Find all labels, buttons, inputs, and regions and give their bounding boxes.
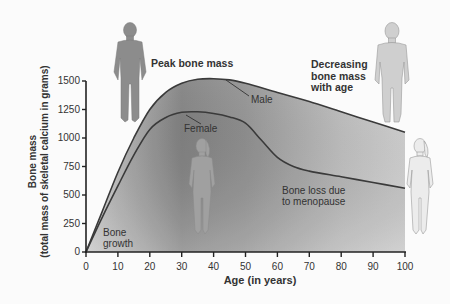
y-axis-label: Bone mass: [27, 62, 39, 262]
child-figure-icon: [114, 23, 146, 123]
x-tick-label: 50: [231, 261, 261, 272]
menopause-line-1: Bone loss due: [282, 185, 345, 196]
x-tick-label: 100: [390, 261, 420, 272]
adult-male-figure-icon: [375, 23, 409, 123]
x-tick-label: 70: [294, 261, 324, 272]
elderly-female-figure-icon: [407, 139, 433, 235]
y-axis-title: Bone mass (total mass of skeletal calciu…: [27, 62, 50, 262]
menopause-annotation: Bone loss due to menopause: [282, 185, 345, 207]
bone-mass-chart: 0250500750100012501500 01020304050607080…: [0, 0, 450, 304]
decreasing-line-3: with age: [311, 82, 368, 94]
x-tick-label: 90: [358, 261, 388, 272]
female-series-label: Female: [184, 123, 217, 134]
x-tick-label: 30: [167, 261, 197, 272]
x-axis-title: Age (in years): [200, 274, 320, 286]
chart-canvas: [0, 0, 450, 304]
x-tick-label: 60: [262, 261, 292, 272]
growth-line-1: Bone: [103, 227, 133, 238]
x-tick-label: 0: [71, 261, 101, 272]
menopause-line-2: to menopause: [282, 196, 345, 207]
bone-growth-annotation: Bone growth: [103, 227, 133, 249]
growth-line-2: growth: [103, 238, 133, 249]
y-axis-sublabel: (total mass of skeletal calcium in grams…: [38, 62, 50, 262]
x-tick-label: 80: [326, 261, 356, 272]
peak-bone-mass-annotation: Peak bone mass: [151, 58, 233, 70]
male-series-label: Male: [251, 94, 273, 105]
decreasing-line-1: Decreasing: [311, 59, 368, 71]
decreasing-bone-mass-annotation: Decreasing bone mass with age: [311, 59, 368, 94]
x-tick-label: 40: [199, 261, 229, 272]
x-tick-label: 20: [135, 261, 165, 272]
x-tick-label: 10: [103, 261, 133, 272]
